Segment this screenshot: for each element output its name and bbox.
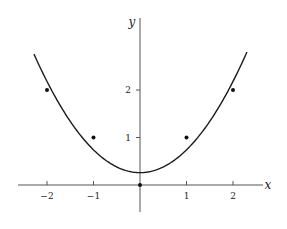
axis-labels: −2−11212xy [40, 15, 271, 201]
x-tick-label: −2 [40, 191, 53, 201]
x-axis-label: x [265, 178, 272, 192]
x-tick-label: 2 [230, 191, 236, 201]
data-point [185, 136, 189, 140]
x-tick-label: 1 [184, 191, 190, 201]
x-tick-label: −1 [87, 191, 100, 201]
y-tick-label: 2 [125, 85, 131, 95]
y-tick-label: 1 [125, 133, 131, 143]
y-axis-label: y [128, 15, 136, 29]
data-point [138, 183, 142, 187]
chart: −2−11212xy [0, 0, 287, 229]
data-point [45, 88, 49, 92]
axes [18, 18, 263, 212]
data-point [231, 88, 235, 92]
data-point [92, 136, 96, 140]
